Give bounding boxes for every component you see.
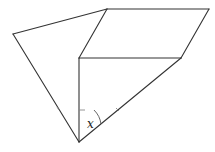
edge-diagonal xyxy=(79,58,181,142)
edge-top-right-slant xyxy=(181,9,209,58)
angle-arc xyxy=(94,110,101,124)
geometry-diagram: x xyxy=(0,0,215,152)
angle-label-x: x xyxy=(87,117,94,131)
edge-top-left-slant xyxy=(79,9,107,58)
edge-left-to-bottom xyxy=(13,34,79,142)
edge-left-to-top xyxy=(13,9,107,34)
